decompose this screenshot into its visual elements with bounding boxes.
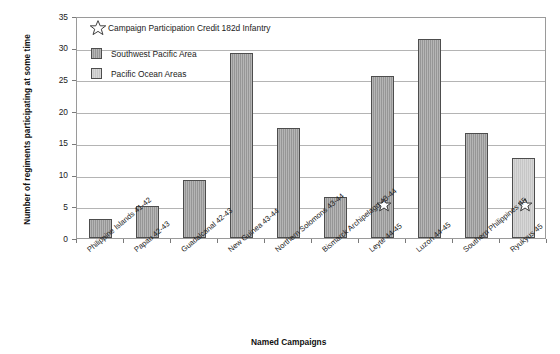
x-tick-mark [76,239,77,243]
y-tick-label: 0 [32,235,68,243]
bar [418,39,442,238]
x-tick-mark [123,239,124,243]
y-tick-label: 10 [32,171,68,179]
y-axis-title: Number of regiments participating at som… [23,15,32,245]
x-tick-mark [405,239,406,243]
x-tick-mark [264,239,265,243]
bar-chart: Number of regiments participating at som… [0,0,560,354]
legend-swatch-dark [91,48,102,59]
y-tick-label: 35 [32,13,68,21]
x-axis-title: Named Campaigns [251,337,326,347]
x-tick-mark [217,239,218,243]
y-tick-label: 30 [32,44,68,52]
x-tick-mark [452,239,453,243]
x-tick-mark [546,239,547,243]
y-tick-label: 20 [32,108,68,116]
y-tick-label: 15 [32,139,68,147]
bar [230,53,254,238]
legend-label-pacific-ocean-areas: Pacific Ocean Areas [111,69,186,79]
legend-label-southwest-pacific-area: Southwest Pacific Area [111,49,197,59]
gridline [77,81,545,82]
legend-entry-southwest-pacific-area: Southwest Pacific Area [91,48,197,59]
x-tick-mark [170,239,171,243]
bar [277,128,301,238]
star-icon [89,19,107,37]
x-tick-mark [358,239,359,243]
bar [465,133,489,238]
legend-note-text: Campaign Participation Credit 182d Infan… [108,23,270,33]
y-tick-label: 25 [32,76,68,84]
legend-swatch-light [91,68,102,79]
gridline [77,113,545,114]
x-tick-mark [311,239,312,243]
y-tick-label: 5 [32,203,68,211]
legend-entry-pacific-ocean-areas: Pacific Ocean Areas [91,68,186,79]
x-tick-mark [499,239,500,243]
legend-note-campaign-credit: Campaign Participation Credit 182d Infan… [89,19,270,37]
